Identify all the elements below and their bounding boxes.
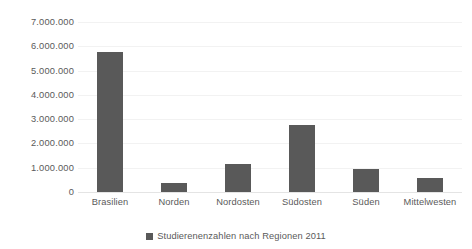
bar-chart: 01.000.0002.000.0003.000.0004.000.0005.0… xyxy=(0,0,472,249)
x-tick-label: Norden xyxy=(158,196,189,208)
y-tick-label: 0 xyxy=(0,187,74,197)
x-axis-tick-labels: BrasilienNordenNordostenSüdostenSüdenMit… xyxy=(78,196,462,212)
bar xyxy=(289,125,315,192)
y-tick-label: 3.000.000 xyxy=(0,114,74,124)
x-tick-label: Süden xyxy=(352,196,379,208)
x-tick-label: Nordosten xyxy=(216,196,260,208)
y-tick-label: 6.000.000 xyxy=(0,41,74,51)
y-axis-tick-labels: 01.000.0002.000.0003.000.0004.000.0005.0… xyxy=(0,0,74,249)
y-tick-label: 2.000.000 xyxy=(0,138,74,148)
gridline xyxy=(78,192,462,193)
plot-area xyxy=(78,22,462,192)
x-tick-label: Mittelwesten xyxy=(404,196,457,208)
x-tick-label: Brasilien xyxy=(92,196,129,208)
y-tick-label: 1.000.000 xyxy=(0,163,74,173)
x-tick-label: Südosten xyxy=(282,196,322,208)
bars xyxy=(78,22,462,192)
y-tick-label: 5.000.000 xyxy=(0,66,74,76)
chart-legend: Studierenenzahlen nach Regionen 2011 xyxy=(0,231,472,242)
bar xyxy=(353,169,379,192)
bar xyxy=(161,183,187,192)
legend-label: Studierenenzahlen nach Regionen 2011 xyxy=(157,231,326,242)
bar xyxy=(225,164,251,192)
y-tick-label: 7.000.000 xyxy=(0,17,74,27)
y-tick-label: 4.000.000 xyxy=(0,90,74,100)
bar xyxy=(97,52,123,192)
legend-swatch-icon xyxy=(146,233,153,240)
bar xyxy=(417,178,443,192)
